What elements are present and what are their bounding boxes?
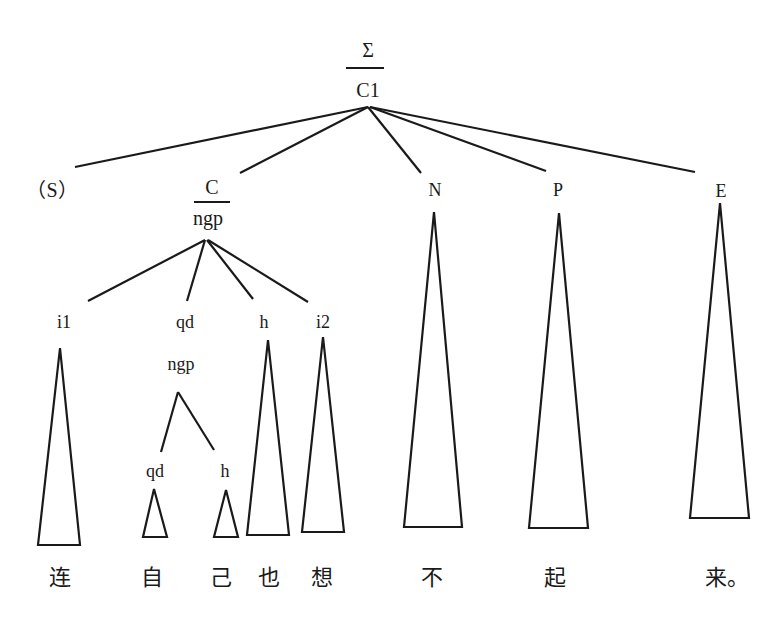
word-xiang: 想 — [311, 567, 333, 589]
triangle-h — [247, 340, 289, 535]
triangle-i2 — [302, 337, 344, 532]
node-C-top: C — [205, 177, 218, 197]
root-top-label: Σ — [362, 40, 374, 60]
word-ji: 己 — [210, 567, 232, 589]
edge-ngp-h — [207, 240, 253, 299]
triangle-h-small — [214, 490, 238, 537]
node-N: N — [429, 181, 442, 199]
root-fraction-bar — [346, 67, 384, 69]
word-bu: 不 — [421, 567, 443, 589]
node-qd-leaf: qd — [146, 462, 164, 480]
node-C-fraction-bar — [194, 201, 230, 203]
triangle-N — [404, 212, 462, 527]
node-S: （S） — [26, 180, 77, 200]
root-bottom-label: C1 — [356, 80, 379, 100]
edge-ngp2-h — [178, 392, 214, 450]
word-lai: 来。 — [705, 567, 749, 589]
node-h-leaf: h — [221, 462, 230, 480]
node-qd: qd — [176, 313, 194, 331]
edge-ngp2-qd — [161, 392, 178, 452]
triangle-qd — [143, 489, 167, 537]
node-P: P — [553, 181, 563, 199]
triangle-i1 — [38, 348, 80, 545]
node-C-bottom: ngp — [193, 208, 223, 228]
edge-root-E — [370, 107, 695, 172]
edge-root-P — [370, 107, 546, 171]
triangle-E — [690, 203, 749, 518]
word-lian: 连 — [49, 567, 71, 589]
word-zi: 自 — [141, 567, 163, 589]
edge-root-C — [240, 107, 368, 173]
node-qd-ngp: ngp — [168, 355, 195, 373]
word-qi: 起 — [544, 567, 566, 589]
node-h: h — [260, 313, 269, 331]
node-E: E — [716, 182, 727, 200]
node-i1: i1 — [57, 313, 71, 331]
tree-edges — [0, 0, 778, 631]
node-i2: i2 — [316, 313, 330, 331]
word-ye: 也 — [258, 567, 280, 589]
edge-ngp-i1 — [88, 240, 205, 301]
edge-ngp-i2 — [208, 240, 308, 302]
syntax-tree-diagram: Σ C1 （S） C ngp N P E i1 qd ngp h i2 qd h… — [0, 0, 778, 631]
triangle-P — [529, 213, 588, 528]
edge-root-S — [75, 107, 368, 167]
